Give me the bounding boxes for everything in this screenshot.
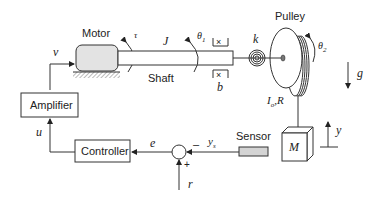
error-label: e — [150, 136, 156, 150]
damping-label: b — [217, 80, 223, 94]
shaft — [118, 51, 233, 65]
bearing-top: × — [213, 37, 228, 47]
reference-label: r — [188, 177, 193, 191]
motor-body — [76, 45, 118, 71]
bearing-bottom: × — [213, 70, 228, 80]
minus-sign: – — [193, 138, 200, 150]
sensor-label: Sensor — [236, 130, 271, 142]
sensor — [239, 147, 268, 156]
control-label: u — [36, 125, 42, 139]
control-signal-line — [50, 119, 75, 152]
summing-junction — [172, 145, 186, 159]
sensor-output-label: ys — [207, 135, 216, 150]
controller-label: Controller — [81, 145, 129, 157]
motor: Motor — [73, 27, 120, 78]
mass-label: M — [288, 140, 300, 154]
voltage-label: v — [53, 45, 59, 59]
amplifier-label: Amplifier — [30, 99, 73, 111]
position-label: y — [335, 123, 342, 137]
mass-block: M — [282, 127, 313, 161]
torque-label: τ — [134, 30, 138, 40]
spring-label: k — [253, 32, 259, 46]
gravity-label: g — [357, 66, 363, 80]
motor-ground-hatch — [73, 72, 120, 78]
motor-label: Motor — [82, 27, 110, 39]
svg-text:×: × — [216, 37, 221, 47]
svg-text:×: × — [216, 70, 221, 80]
voltage-signal-line — [50, 64, 74, 90]
pulley: Pulley — [270, 10, 309, 96]
plus-sign: + — [184, 159, 190, 170]
pulley-params-label: Io,R — [266, 94, 284, 109]
motor-pulley-control-diagram: Motor v τ J Shaft θ1 × × b k Pulley — [0, 0, 378, 203]
theta2-label: θ2 — [318, 40, 327, 54]
theta1-label: θ1 — [197, 30, 205, 44]
shaft-label: Shaft — [148, 72, 174, 84]
inertia-label: J — [163, 34, 169, 48]
pulley-label: Pulley — [275, 10, 305, 22]
theta2-arrow — [310, 38, 315, 62]
